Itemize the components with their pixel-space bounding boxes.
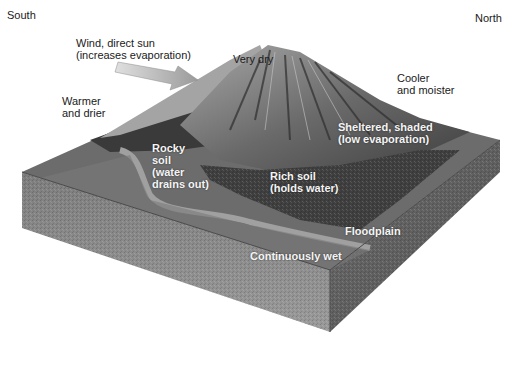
- direction-north-label: North: [475, 12, 502, 24]
- rich-soil-label: Rich soil (holds water): [270, 170, 338, 194]
- landscape-diagram: South North Wind, direct sun (increases …: [0, 0, 517, 392]
- rocky-soil-label: Rocky soil (water drains out): [152, 142, 209, 190]
- wind-arrow-icon: [115, 62, 198, 90]
- wind-sun-label: Wind, direct sun (increases evaporation): [76, 37, 191, 61]
- warmer-drier-label: Warmer and drier: [62, 95, 105, 119]
- cooler-moister-label: Cooler and moister: [397, 72, 454, 96]
- sheltered-shaded-label: Sheltered, shaded (low evaporation): [338, 121, 433, 145]
- continuously-wet-label: Continuously wet: [250, 250, 342, 262]
- direction-south-label: South: [7, 9, 36, 21]
- very-dry-label: Very dry: [233, 53, 273, 65]
- floodplain-label: Floodplain: [345, 225, 401, 237]
